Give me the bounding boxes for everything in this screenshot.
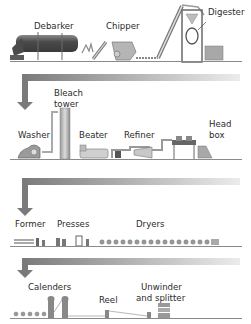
label-debarker: Debarker <box>34 21 74 31</box>
flow-arrow-2 <box>17 178 240 216</box>
ground-line-2 <box>10 159 242 160</box>
label-unwinder-line1: Unwinder <box>141 282 182 292</box>
label-unwinder-line2: and splitter <box>136 293 185 303</box>
flow-arrow-1 <box>17 74 240 110</box>
digester-machine <box>182 10 223 62</box>
former-presses-dryers <box>14 236 219 246</box>
label-beater: Beater <box>79 130 108 140</box>
label-calenders: Calenders <box>28 282 71 292</box>
label-bleach-line2: tower <box>54 99 78 109</box>
head-box <box>172 136 212 159</box>
flow-arrow-3 <box>17 258 240 278</box>
label-dryers: Dryers <box>136 219 165 229</box>
label-former: Former <box>15 219 45 229</box>
refiner-machine <box>112 140 172 158</box>
label-headbox-line2: box <box>209 130 225 140</box>
label-bleach-line1: Bleach <box>54 88 83 98</box>
ground-line-4 <box>10 318 242 319</box>
ground-line-3 <box>10 246 242 247</box>
label-washer: Washer <box>18 130 50 140</box>
papermaking-diagram <box>0 0 251 324</box>
chipper-machine <box>82 42 158 60</box>
beater-machine <box>80 145 108 158</box>
debarker-machine <box>10 32 78 60</box>
ground-line-1 <box>10 61 242 62</box>
label-headbox-line1: Head <box>209 119 231 129</box>
bleach-tower <box>60 108 70 159</box>
label-digester: Digester <box>208 7 244 17</box>
label-reel: Reel <box>99 295 118 305</box>
label-chipper: Chipper <box>106 21 140 31</box>
label-refiner: Refiner <box>124 130 155 140</box>
label-presses: Presses <box>57 219 89 229</box>
